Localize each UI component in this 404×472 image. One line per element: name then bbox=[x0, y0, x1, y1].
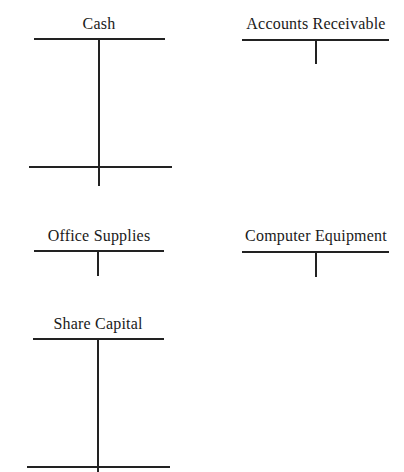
t-account-total-line bbox=[29, 166, 172, 168]
t-account-top-line bbox=[34, 250, 164, 252]
account-title: Cash bbox=[83, 15, 116, 33]
t-account-divider bbox=[315, 251, 317, 277]
account-title: Accounts Receivable bbox=[246, 15, 385, 33]
t-account-total-line bbox=[27, 466, 170, 468]
account-title: Computer Equipment bbox=[245, 227, 387, 245]
account-title: Office Supplies bbox=[48, 227, 151, 245]
t-account-divider bbox=[315, 39, 317, 64]
t-account-divider bbox=[97, 338, 99, 472]
t-account-divider bbox=[98, 38, 100, 186]
t-account-divider bbox=[97, 250, 99, 276]
account-title: Share Capital bbox=[53, 315, 142, 333]
